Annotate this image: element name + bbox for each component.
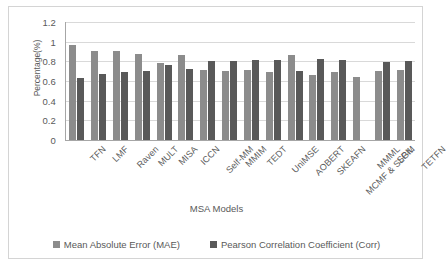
bar-group [306, 22, 328, 140]
plot-area [65, 22, 415, 140]
bar-mae [244, 70, 251, 140]
bar-corr [77, 78, 84, 140]
bar-group [88, 22, 110, 140]
bar-mae [135, 54, 142, 140]
x-axis-title: MSA Models [9, 203, 424, 214]
bar-mae [353, 77, 360, 140]
bar-corr [405, 61, 412, 140]
y-axis-tick-labels: 1.210.80.60.40.20 [9, 22, 61, 140]
legend-label: Pearson Correlation Coefficient (Corr) [221, 239, 380, 250]
x-axis-tick-label: Raven [134, 144, 160, 170]
chart-container: Percentage(%) 1.210.80.60.40.20 TFNLMFRa… [8, 6, 423, 259]
bar-corr [230, 61, 237, 140]
bar-mae [331, 72, 338, 140]
x-axis-tick-label: LMF [110, 144, 130, 164]
bar-group [262, 22, 284, 140]
bar-group [66, 22, 88, 140]
bar-corr [186, 69, 193, 140]
bar-mae [178, 55, 185, 140]
y-axis-tick-label: 0.8 [42, 56, 56, 67]
bar-corr [99, 74, 106, 140]
bar-group [241, 22, 263, 140]
legend-item[interactable]: Mean Absolute Error (MAE) [53, 239, 180, 250]
legend-swatch-icon [210, 241, 217, 248]
bar-mae [288, 55, 295, 140]
bar-series-group [66, 22, 415, 140]
y-axis-tick-label: 0.6 [42, 76, 56, 87]
bar-mae [91, 51, 98, 140]
bar-mae [113, 51, 120, 140]
bar-corr [121, 72, 128, 140]
bar-group [131, 22, 153, 140]
bar-corr [274, 60, 281, 140]
bar-mae [309, 75, 316, 140]
x-axis-tick-label: TETFN [420, 144, 448, 172]
y-axis-tick-label: 1 [51, 36, 56, 47]
bar-corr [317, 59, 324, 140]
y-axis-tick-label: 0.4 [42, 95, 56, 106]
y-axis-tick-label: 0 [51, 135, 56, 146]
bar-corr [252, 60, 259, 140]
bar-group [284, 22, 306, 140]
bar-mae [69, 45, 76, 140]
bar-corr [165, 65, 172, 140]
bar-group [371, 22, 393, 140]
bar-group [175, 22, 197, 140]
bar-mae [397, 70, 404, 140]
x-axis-tick-label: TEDT [265, 144, 289, 168]
bar-corr [339, 60, 346, 140]
bar-mae [157, 63, 164, 140]
x-axis-tick-label: ICCN [199, 144, 222, 167]
y-axis-tick-label: 0.2 [42, 115, 56, 126]
chart-legend: Mean Absolute Error (MAE)Pearson Correla… [9, 239, 424, 250]
x-axis-category-labels: TFNLMFRavenMULTMISAICCNSelf-MMMMIMTEDTUn… [66, 141, 416, 203]
x-axis-tick-label: TFN [88, 144, 108, 164]
legend-swatch-icon [53, 241, 60, 248]
bar-corr [143, 71, 150, 140]
bar-group [328, 22, 350, 140]
x-axis-tick-label: MULT [156, 144, 180, 168]
bar-group [197, 22, 219, 140]
legend-label: Mean Absolute Error (MAE) [64, 239, 180, 250]
bar-corr [208, 61, 215, 140]
bar-mae [222, 71, 229, 140]
legend-item[interactable]: Pearson Correlation Coefficient (Corr) [210, 239, 380, 250]
bar-group [219, 22, 241, 140]
bar-mae [375, 71, 382, 140]
bar-group [110, 22, 132, 140]
bar-mae [200, 70, 207, 140]
bar-group [393, 22, 415, 140]
x-axis-tick-label: MISA [177, 144, 200, 167]
bar-mae [266, 72, 273, 140]
bar-corr [383, 62, 390, 140]
bar-corr [296, 71, 303, 140]
bar-group [350, 22, 372, 140]
y-axis-tick-label: 1.2 [42, 17, 56, 28]
bar-group [153, 22, 175, 140]
